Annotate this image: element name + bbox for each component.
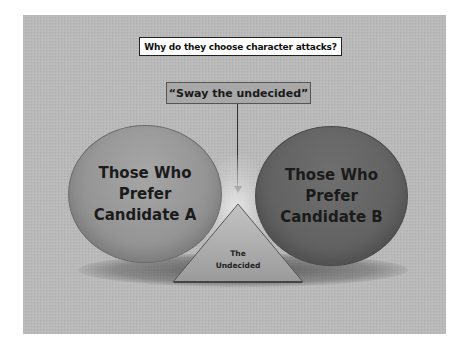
- candidate-a-line2: Prefer: [94, 184, 197, 205]
- slide-title: Why do they choose character attacks?: [139, 37, 342, 56]
- undecided-label-line2: Undecided: [216, 261, 261, 270]
- candidate-b-line1: Those Who: [280, 165, 383, 186]
- candidate-b-line2: Prefer: [280, 186, 383, 207]
- candidate-a-line1: Those Who: [94, 163, 197, 184]
- candidate-b-line3: Candidate B: [280, 207, 383, 228]
- callout-box: “Sway the undecided”: [166, 82, 311, 104]
- undecided-label: The Undecided: [173, 248, 303, 272]
- candidate-a-circle: Those Who Prefer Candidate A: [68, 125, 222, 263]
- undecided-label-line1: The: [230, 249, 246, 258]
- candidate-b-circle: Those Who Prefer Candidate B: [255, 126, 408, 266]
- candidate-a-line3: Candidate A: [94, 205, 197, 226]
- slide-panel: Why do they choose character attacks? “S…: [23, 15, 446, 334]
